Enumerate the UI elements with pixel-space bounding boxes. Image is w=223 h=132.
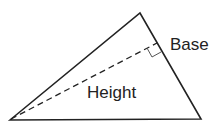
base-label: Base bbox=[170, 35, 209, 54]
triangle-diagram: Base Height bbox=[0, 0, 223, 132]
height-label: Height bbox=[87, 83, 136, 102]
right-angle-marker bbox=[147, 48, 161, 57]
height-line bbox=[11, 43, 157, 119]
